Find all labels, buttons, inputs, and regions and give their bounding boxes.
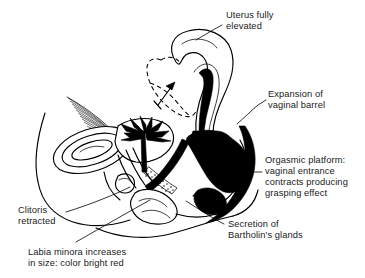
label-platform-line2: vaginal entrance — [265, 166, 335, 176]
label-barrel-line1: Expansion of — [268, 89, 323, 99]
clitoris-body — [115, 174, 134, 193]
label-barrel-line2: vaginal barrel — [268, 100, 325, 110]
label-platform-line1: Orgasmic platform: — [265, 155, 345, 165]
label-platform-line4: grasping effect — [265, 188, 328, 198]
label-labia-line2: in size: color bright red — [28, 258, 124, 268]
label-platform-line3: contracts producing — [265, 177, 348, 187]
label-bartholin-line2: Bartholin's glands — [228, 230, 303, 240]
label-uterus-line1: Uterus fully — [226, 10, 274, 20]
label-uterus-line2: elevated — [226, 21, 262, 31]
label-labia: Labia minora increases in size: color br… — [28, 247, 129, 268]
label-labia-line1: Labia minora increases — [28, 247, 126, 257]
label-clitoris-line1: Clitoris — [18, 205, 47, 215]
label-bartholin-line1: Secretion of — [228, 219, 279, 229]
anatomy-illustration: Uterus fully elevated Expansion of vagin… — [0, 0, 365, 278]
label-clitoris-line2: retracted — [18, 216, 56, 226]
clitoris-retracted — [115, 174, 134, 193]
anatomical-figure: Uterus fully elevated Expansion of vagin… — [0, 0, 365, 278]
label-vaginal-barrel: Expansion of vaginal barrel — [268, 89, 326, 110]
